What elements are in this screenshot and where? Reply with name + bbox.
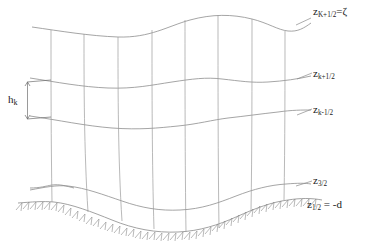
label-leader-lines xyxy=(296,18,312,186)
vertical-grid-line-8 xyxy=(284,31,285,200)
label-layer-thickness: hk xyxy=(8,93,18,105)
vertical-grid-line-1 xyxy=(51,30,52,202)
interface-curve-k-minus-half xyxy=(30,110,311,129)
vertical-grid-lines xyxy=(51,15,285,232)
label-interface-three-halves: z3/2 xyxy=(313,175,327,186)
label-bottom-equals: = -d xyxy=(321,198,342,210)
interface-curve-surface xyxy=(32,15,311,37)
figure-canvas: zK+1/2=ζ zk+1/2 zk-1/2 z3/2 z1/2 = -d hk xyxy=(0,0,377,247)
seabed-hatching xyxy=(16,199,316,241)
label-interface-k-minus-half: zk-1/2 xyxy=(313,104,333,115)
bottom-boundary-line xyxy=(18,199,322,233)
vertical-grid-line-5 xyxy=(185,20,186,232)
label-bottom-depth: z1/2 = -d xyxy=(307,199,342,210)
seabed-curve xyxy=(18,199,322,233)
leader-line-surface xyxy=(296,18,311,25)
label-surface-level: zK+1/2=ζ xyxy=(313,6,347,17)
label-surface-subscript: K+1/2 xyxy=(318,11,336,19)
interface-curves xyxy=(30,15,311,210)
vertical-grid-line-3 xyxy=(118,37,122,221)
label-hk-symbol: h xyxy=(8,93,14,105)
label-kminus-subscript: k-1/2 xyxy=(318,109,333,117)
label-surface-equals: =ζ xyxy=(336,5,347,17)
interface-curve-k-plus-half xyxy=(30,76,311,88)
label-bottom-subscript: 1/2 xyxy=(312,204,321,212)
label-interface-k-plus-half: zk+1/2 xyxy=(313,68,335,79)
vertical-grid-line-6 xyxy=(218,15,219,228)
label-kplus-subscript: k+1/2 xyxy=(318,73,335,81)
layer-thickness-bracket xyxy=(25,80,51,119)
vertical-grid-line-2 xyxy=(84,34,88,212)
label-hk-subscript: k xyxy=(14,98,18,107)
vertical-grid-line-4 xyxy=(152,30,154,229)
label-threehalf-subscript: 3/2 xyxy=(318,180,327,188)
